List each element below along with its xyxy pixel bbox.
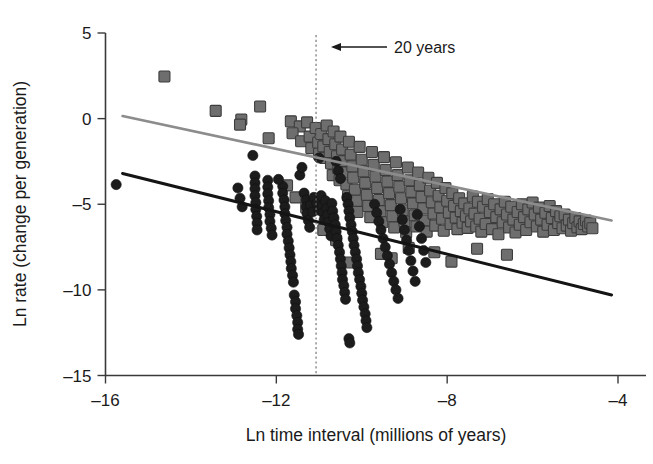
data-point bbox=[293, 329, 303, 339]
y-tick-label-1: 0 bbox=[82, 110, 91, 129]
x-tick-label-0: –16 bbox=[91, 391, 119, 410]
data-point bbox=[348, 172, 359, 183]
data-point bbox=[501, 249, 512, 260]
data-point bbox=[349, 184, 360, 195]
data-point bbox=[273, 174, 283, 184]
data-point bbox=[394, 181, 405, 192]
annotation-layer: 20 years bbox=[331, 39, 455, 56]
y-tick-label-3: –10 bbox=[63, 281, 91, 300]
data-point bbox=[267, 230, 277, 240]
data-point bbox=[406, 256, 416, 266]
data-point bbox=[402, 162, 413, 173]
data-point bbox=[367, 147, 378, 158]
data-point bbox=[288, 277, 298, 287]
data-points-layer bbox=[111, 71, 598, 348]
data-point bbox=[370, 171, 381, 182]
data-point bbox=[297, 162, 307, 172]
data-point bbox=[493, 229, 504, 240]
data-point bbox=[395, 204, 405, 214]
twenty-years-label: 20 years bbox=[394, 39, 455, 56]
annotation-arrow-head bbox=[331, 43, 341, 51]
data-point bbox=[414, 221, 424, 231]
data-point bbox=[263, 133, 274, 144]
data-point bbox=[305, 222, 315, 232]
data-point bbox=[410, 276, 420, 286]
data-point bbox=[343, 136, 354, 147]
data-point bbox=[393, 293, 403, 303]
x-tick-label-3: –4 bbox=[609, 391, 628, 410]
data-point bbox=[360, 177, 371, 188]
data-point bbox=[412, 209, 422, 219]
data-point bbox=[399, 225, 409, 235]
data-point bbox=[382, 176, 393, 187]
data-point bbox=[255, 101, 266, 112]
data-point bbox=[345, 338, 355, 348]
data-point bbox=[356, 154, 367, 165]
data-point bbox=[397, 215, 407, 225]
data-point bbox=[472, 243, 483, 254]
data-point bbox=[235, 119, 246, 130]
scatter-chart-figure: –16–12–8–450–5–10–15 20 years Ln time in… bbox=[0, 0, 653, 464]
data-point bbox=[385, 200, 396, 211]
data-point bbox=[340, 294, 350, 304]
data-point bbox=[372, 182, 383, 193]
data-point bbox=[408, 266, 418, 276]
data-point bbox=[252, 225, 262, 235]
data-point bbox=[421, 257, 431, 267]
data-point bbox=[416, 233, 426, 243]
x-axis-title: Ln time interval (millions of years) bbox=[246, 425, 507, 445]
data-point bbox=[384, 188, 395, 199]
y-tick-label-4: –15 bbox=[63, 367, 91, 386]
data-point bbox=[335, 173, 345, 183]
chart-svg: –16–12–8–450–5–10–15 20 years Ln time in… bbox=[0, 0, 653, 464]
data-point bbox=[361, 189, 372, 200]
data-point bbox=[354, 141, 365, 152]
y-tick-label-0: 5 bbox=[82, 24, 91, 43]
data-point bbox=[210, 105, 221, 116]
data-point bbox=[159, 71, 170, 82]
data-point bbox=[362, 322, 372, 332]
data-point bbox=[111, 179, 121, 189]
data-point bbox=[248, 150, 258, 160]
y-axis-title: Ln rate (change per generation) bbox=[10, 81, 30, 327]
data-point bbox=[378, 152, 389, 163]
data-point bbox=[446, 256, 457, 267]
data-point bbox=[413, 167, 424, 178]
x-tick-label-1: –12 bbox=[262, 391, 290, 410]
data-point bbox=[396, 193, 407, 204]
x-tick-label-2: –8 bbox=[438, 391, 457, 410]
data-point bbox=[390, 157, 401, 168]
y-tick-label-2: –5 bbox=[73, 195, 92, 214]
data-point bbox=[389, 222, 400, 233]
data-point bbox=[233, 183, 243, 193]
data-point bbox=[587, 223, 598, 234]
